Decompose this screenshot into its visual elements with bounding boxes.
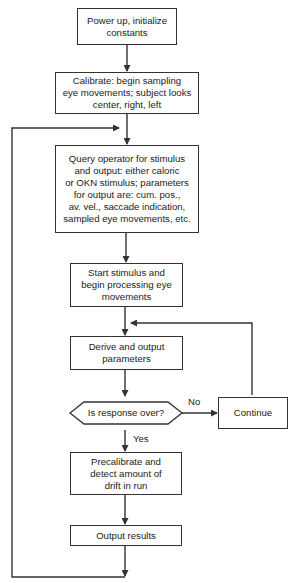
node-continue: Continue <box>218 397 288 429</box>
edge-label-no: No <box>188 396 200 407</box>
node-precalibrate: Precalibrate and detect amount of drift … <box>70 452 182 495</box>
node-query: Query operator for stimulus and output: … <box>55 145 199 233</box>
node-decision: Is response over? <box>80 407 172 418</box>
node-derive: Derive and output parameters <box>70 336 183 370</box>
edge-label-yes: Yes <box>133 433 149 444</box>
node-start: Start stimulus and begin processing eye … <box>70 263 183 307</box>
node-power-up: Power up, initialize constants <box>77 8 177 45</box>
node-calibrate: Calibrate: begin sampling eye movements;… <box>55 72 199 114</box>
node-output-results: Output results <box>70 525 182 546</box>
